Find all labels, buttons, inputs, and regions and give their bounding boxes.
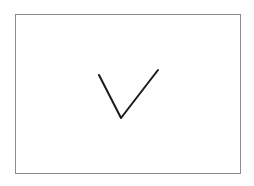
- checkmark-icon: [0, 0, 254, 186]
